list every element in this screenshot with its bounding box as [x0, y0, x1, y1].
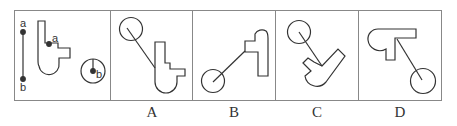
svg-text:a: a [52, 32, 59, 44]
svg-text:b: b [96, 68, 102, 80]
option-b-figure[interactable] [202, 30, 269, 93]
option-a-figure[interactable] [120, 18, 186, 94]
option-b-label[interactable]: B [214, 104, 254, 121]
outer-border [15, 11, 442, 101]
option-c-label[interactable]: C [297, 104, 337, 121]
svg-text:b: b [20, 81, 26, 93]
question-panel: a b a b [20, 17, 105, 93]
option-d-figure[interactable] [368, 29, 436, 94]
svg-text:a: a [20, 17, 27, 29]
option-c-figure[interactable] [288, 21, 346, 87]
option-a-label[interactable]: A [132, 104, 172, 121]
option-d-label[interactable]: D [380, 104, 420, 121]
